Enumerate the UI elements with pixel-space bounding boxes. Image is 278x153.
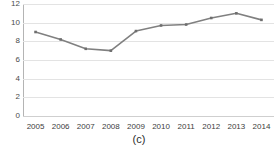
- data-point-marker: [210, 17, 213, 20]
- line-series: [23, 4, 274, 116]
- data-point-marker: [34, 31, 37, 34]
- data-point-marker: [110, 49, 113, 52]
- y-tick-label: 2: [0, 93, 20, 101]
- y-tick-label: 6: [0, 56, 20, 64]
- y-tick-label: 4: [0, 75, 20, 83]
- y-tick-label: 8: [0, 37, 20, 45]
- chart-axes: [23, 4, 274, 116]
- x-tick-label: 2014: [244, 122, 278, 132]
- data-point-marker: [135, 30, 138, 33]
- chart-title-clipped: [0, 0, 278, 2]
- y-axis-tick-labels: 024681012: [0, 4, 20, 116]
- data-point-marker: [59, 38, 62, 41]
- data-point-marker: [260, 19, 263, 22]
- chart-plot-area: 024681012 200520062007200820092010201120…: [0, 4, 278, 116]
- y-tick-label: 0: [0, 112, 20, 120]
- data-point-marker: [160, 24, 163, 27]
- figure-panel-c: 024681012 200520062007200820092010201120…: [0, 0, 278, 153]
- data-point-marker: [185, 23, 188, 26]
- y-tick-label: 10: [0, 19, 20, 27]
- figure-caption: (c): [0, 132, 278, 146]
- data-point-marker: [235, 12, 238, 15]
- data-point-marker: [84, 48, 87, 51]
- y-tick-label: 12: [0, 0, 20, 8]
- gridline: [23, 116, 274, 117]
